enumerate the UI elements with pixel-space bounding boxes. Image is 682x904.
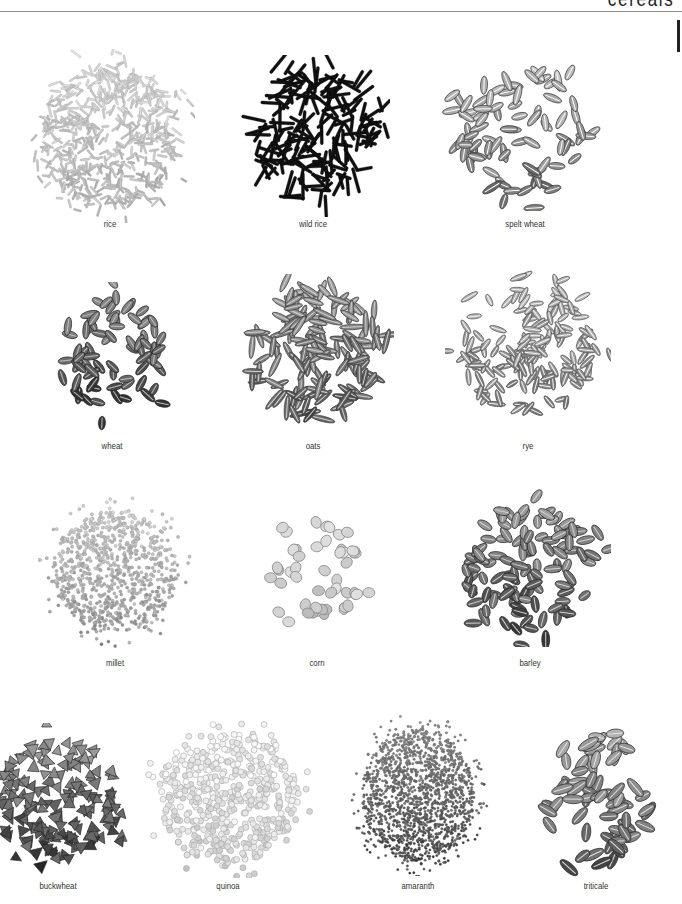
- grain-label-triticale: triticale: [584, 880, 609, 891]
- grain-label-quinoa: quinoa: [216, 880, 239, 891]
- grain-label-rice: rice: [104, 218, 117, 229]
- grain-illustration-spelt-wheat: [440, 57, 610, 211]
- page-title: cereals: [607, 0, 674, 11]
- grain-label-barley: barley: [519, 657, 540, 668]
- grain-illustration-rice: [25, 49, 195, 223]
- grain-illustration-barley: [449, 489, 611, 647]
- grain-illustration-quinoa: [143, 716, 313, 878]
- grain-label-millet: millet: [106, 657, 124, 668]
- grain-illustration-rye: [445, 269, 611, 431]
- grain-label-wheat: wheat: [102, 440, 123, 451]
- grain-illustration-amaranth: [347, 714, 489, 876]
- grain-label-corn: corn: [309, 657, 324, 668]
- grain-illustration-wheat: [45, 282, 179, 432]
- grain-label-spelt-wheat: spelt wheat: [505, 218, 544, 229]
- grain-illustration-oats: [232, 274, 394, 436]
- header-rule: [0, 11, 682, 12]
- chapter-thumb-tab: [677, 20, 680, 52]
- grain-illustration-buckwheat: [0, 723, 135, 877]
- grain-illustration-triticale: [525, 721, 667, 879]
- grain-label-buckwheat: buckwheat: [39, 880, 76, 891]
- grain-illustration-corn: [254, 505, 380, 635]
- grain-label-amaranth: amaranth: [402, 880, 435, 891]
- grain-label-wild-rice: wild rice: [299, 218, 327, 229]
- grain-illustration-wild-rice: [236, 55, 390, 217]
- grain-label-oats: oats: [306, 440, 321, 451]
- grain-illustration-millet: [38, 494, 192, 648]
- grain-label-rye: rye: [523, 440, 534, 451]
